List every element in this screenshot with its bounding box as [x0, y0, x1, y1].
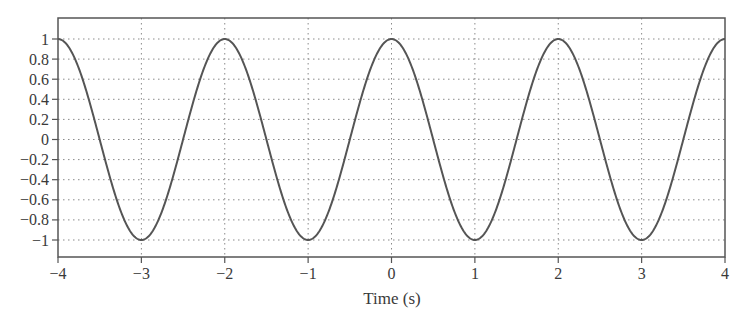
y-tick-label: −0.6: [20, 191, 49, 208]
x-axis-tick-labels: −4−3−2−101234: [49, 265, 729, 282]
y-tick-label: 1: [41, 31, 49, 48]
x-tick-label: 1: [471, 265, 479, 282]
x-tick-label: 0: [388, 265, 396, 282]
x-axis-title: Time (s): [363, 289, 420, 308]
x-tick-label: 3: [638, 265, 646, 282]
x-tick-label: −4: [49, 265, 66, 282]
y-tick-label: 0.8: [29, 51, 49, 68]
x-tick-label: −2: [216, 265, 233, 282]
y-tick-label: 0.4: [29, 91, 49, 108]
x-tick-label: −1: [300, 265, 317, 282]
y-tick-label: 0: [41, 131, 49, 148]
y-tick-label: 0.6: [29, 71, 49, 88]
x-tick-label: 4: [721, 265, 729, 282]
x-tick-label: 2: [554, 265, 562, 282]
y-tick-label: 0.2: [29, 111, 49, 128]
y-tick-label: −0.8: [20, 211, 49, 228]
y-axis-tick-labels: 10.80.60.40.20−0.2−0.4−0.6−0.8−1: [20, 31, 49, 249]
y-tick-label: −1: [32, 232, 49, 249]
line-chart: −4−3−2−101234 10.80.60.40.20−0.2−0.4−0.6…: [0, 0, 737, 320]
y-tick-label: −0.2: [20, 151, 49, 168]
x-tick-label: −3: [133, 265, 150, 282]
y-tick-label: −0.4: [20, 171, 49, 188]
